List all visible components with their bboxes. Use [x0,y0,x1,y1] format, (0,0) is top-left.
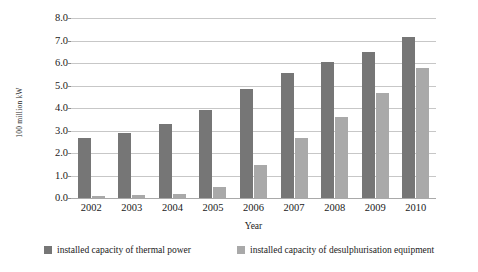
bar [92,196,105,198]
bar-groups [71,18,436,198]
bar [159,124,172,198]
chart-legend: installed capacity of thermal powerinsta… [0,241,478,259]
bar [213,187,226,198]
x-axis-tick-labels: 200220032004200520062007200820092010 [71,202,436,218]
legend-entry[interactable]: installed capacity of desulphurisation e… [237,245,434,255]
y-axis-tick-label: 4.0 [38,102,68,114]
x-axis-tick-label: 2008 [314,202,355,218]
y-axis-tick-label: 8.0 [38,12,68,24]
bar-group [71,18,112,198]
bar [118,133,131,198]
bar [173,194,186,198]
bar-group [112,18,153,198]
y-axis-title: 100 million kW [15,68,24,158]
x-axis-tick-label: 2009 [355,202,396,218]
bar [402,37,415,198]
bar [295,138,308,198]
bar-group [396,18,437,198]
y-axis-tick-label: 6.0 [38,57,68,69]
legend-entry[interactable]: installed capacity of thermal power [44,245,191,255]
legend-label: installed capacity of desulphurisation e… [250,245,434,255]
bar [240,89,253,198]
bar-group [152,18,193,198]
bar [199,110,212,198]
x-axis-tick-label: 2005 [193,202,234,218]
series-b-swatch [237,246,245,254]
bar [281,73,294,198]
plot-area [71,18,436,198]
y-axis-tick-label: 3.0 [38,125,68,137]
axis-baseline [71,198,436,199]
bar [362,52,375,198]
y-axis-tick-mark [67,198,71,199]
series-a-swatch [44,246,52,254]
bar-group [233,18,274,198]
y-axis-tick-labels: 8.07.06.05.04.03.02.01.00.0 [38,12,68,204]
legend-label: installed capacity of thermal power [57,245,191,255]
bar [132,195,145,198]
bar [78,138,91,198]
bar-group [193,18,234,198]
bar [321,62,334,198]
bar [335,117,348,198]
y-axis-tick-label: 1.0 [38,170,68,182]
y-axis-tick-label: 7.0 [38,35,68,47]
bar [416,68,429,199]
bar-group [274,18,315,198]
y-axis-tick-label: 2.0 [38,147,68,159]
x-axis-tick-label: 2006 [233,202,274,218]
x-axis-title: Year [71,221,436,231]
bar-group [355,18,396,198]
x-axis-tick-label: 2003 [112,202,153,218]
bar-group [314,18,355,198]
y-axis-tick-label: 5.0 [38,80,68,92]
bar-chart: 100 million kW 8.07.06.05.04.03.02.01.00… [0,0,478,272]
x-axis-tick-label: 2007 [274,202,315,218]
x-axis-tick-label: 2010 [396,202,437,218]
x-axis-tick-label: 2004 [152,202,193,218]
bar [254,165,267,198]
y-axis-tick-label: 0.0 [38,192,68,204]
bar [376,93,389,198]
x-axis-tick-label: 2002 [71,202,112,218]
